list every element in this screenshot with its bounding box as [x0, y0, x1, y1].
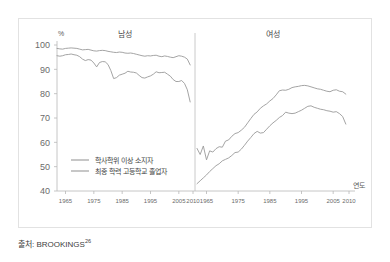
- series-line-0-1: [57, 54, 190, 102]
- chart-plot-frame: 100908070605040 196519751985199520052010…: [18, 18, 372, 228]
- y-tick-label: 90: [40, 65, 50, 75]
- legend-label-1: 최종 학력 고등학교 졸업자: [95, 167, 168, 176]
- x-tick-label: 1985: [263, 198, 277, 204]
- y-tick-label: 100: [35, 40, 50, 50]
- x-tick-label: 1995: [144, 198, 158, 204]
- source-caption: 출처: BROOKINGS26: [18, 238, 91, 249]
- x-tick-label: 1965: [59, 198, 73, 204]
- x-tick-label: 1975: [231, 198, 245, 204]
- chart-figure: 100908070605040 196519751985199520052010…: [0, 0, 390, 262]
- left-panel-title: 남성: [118, 30, 132, 39]
- x-tick-label: 2010: [342, 198, 356, 204]
- x-tick-label: 1985: [115, 198, 129, 204]
- x-tick-label: 1995: [295, 198, 309, 204]
- x-axis-tick-labels-right-panel: 196519751985199520052010: [200, 198, 357, 204]
- y-tick-label: 80: [40, 89, 50, 99]
- right-panel-title: 여성: [266, 29, 280, 39]
- chart-canvas: 100908070605040 196519751985199520052010…: [19, 19, 371, 227]
- y-tick-label: 60: [40, 138, 50, 148]
- source-caption-footnote: 26: [85, 238, 91, 244]
- x-tick-label: 1965: [200, 198, 214, 204]
- x-tick-label: 1975: [87, 198, 101, 204]
- y-tick-label: 40: [40, 186, 50, 196]
- x-tick-label: 2005: [172, 198, 186, 204]
- x-tick-label: 2010: [186, 198, 200, 204]
- y-tick-label: 50: [40, 162, 50, 172]
- x-axis-name-label: 연도: [353, 182, 366, 189]
- y-tick-label: 70: [40, 113, 50, 123]
- legend-label-0: 학사학위 이상 소지자: [95, 156, 154, 165]
- y-axis-unit-label: %: [58, 30, 64, 37]
- x-tick-label: 2005: [326, 198, 340, 204]
- y-axis-tick-labels: 100908070605040: [35, 40, 50, 196]
- chart-legend: 학사학위 이상 소지자최종 학력 고등학교 졸업자: [71, 156, 168, 176]
- x-axis-tick-labels-left-panel: 196519751985199520052010: [59, 198, 201, 204]
- series-line-1-1: [197, 106, 346, 184]
- series-line-0-0: [57, 48, 190, 65]
- source-caption-text: 출처: BROOKINGS: [18, 240, 85, 249]
- series-line-1-0: [197, 85, 346, 159]
